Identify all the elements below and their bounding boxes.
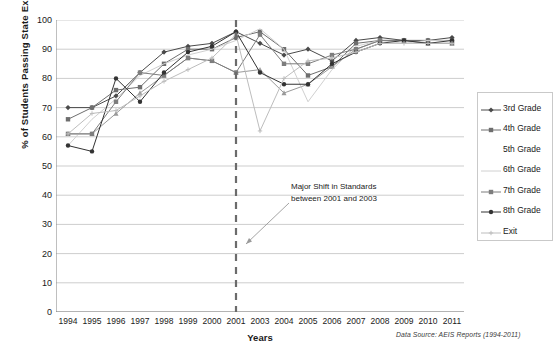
- datapoint-1998: [162, 70, 166, 74]
- datapoint-2000: [210, 44, 214, 48]
- y-tick-40: 40: [22, 190, 52, 200]
- datapoint-1999: [186, 56, 190, 60]
- datapoint-1997: [138, 70, 142, 74]
- line-chart: % of Students Passing State Exam 0102030…: [0, 0, 558, 358]
- datapoint-1999: [186, 50, 190, 54]
- legend-marker-icon: [480, 163, 502, 175]
- y-tick-70: 70: [22, 103, 52, 113]
- legend-point: [489, 128, 493, 132]
- legend-label: 3rd Grade: [502, 103, 541, 113]
- datapoint-2003: [258, 70, 262, 74]
- annotation-leader-line: [246, 203, 289, 244]
- datapoint-1997: [138, 100, 142, 104]
- datapoint-2006: [330, 62, 334, 66]
- legend-item-8th-grade[interactable]: 8th Grade: [480, 200, 552, 221]
- y-tick-10: 10: [22, 278, 52, 288]
- y-tick-30: 30: [22, 219, 52, 229]
- x-tick-2011: 2011: [432, 316, 472, 326]
- legend-label: 8th Grade: [502, 205, 541, 215]
- series-line: [68, 32, 452, 152]
- datapoint-1995: [90, 149, 94, 153]
- annotation-major-shift: Major Shift in Standards between 2001 an…: [291, 181, 411, 204]
- y-tick-90: 90: [22, 44, 52, 54]
- series-5th-grade: [66, 38, 455, 136]
- y-tick-100: 100: [22, 15, 52, 25]
- legend-marker-icon: [480, 102, 502, 114]
- datapoint-1994: [66, 117, 70, 121]
- legend-marker-icon: [480, 143, 502, 155]
- annotation-line-1: Major Shift in Standards: [291, 181, 411, 193]
- datapoint-1994: [66, 143, 70, 147]
- datapoint-2003: [257, 41, 262, 46]
- datapoint-1996: [114, 100, 118, 104]
- legend-item-4th-grade[interactable]: 4th Grade: [480, 118, 552, 139]
- plot-svg: [56, 20, 464, 312]
- legend-label: Exit: [502, 226, 517, 236]
- legend-item-3rd-grade[interactable]: 3rd Grade: [480, 97, 552, 118]
- series-7th-grade: [66, 32, 454, 136]
- legend-label: 5th Grade: [502, 144, 541, 154]
- y-tick-20: 20: [22, 249, 52, 259]
- datapoint-2005: [305, 47, 310, 52]
- legend-marker-icon: [480, 204, 502, 216]
- legend-item-5th-grade[interactable]: 5th Grade: [480, 138, 552, 159]
- datapoint-2005: [306, 82, 310, 86]
- datapoint-1994: [65, 105, 70, 110]
- datapoint-1996: [114, 76, 118, 80]
- datapoint-2005: [306, 73, 310, 77]
- datapoint-2003: [258, 32, 262, 36]
- datapoint-1997: [138, 85, 142, 89]
- datapoint-1995: [90, 105, 94, 109]
- datapoint-2004: [282, 62, 286, 66]
- legend-label: 4th Grade: [502, 123, 541, 133]
- legend-label: 7th Grade: [502, 185, 541, 195]
- legend-label: 6th Grade: [502, 164, 541, 174]
- legend-item-7th-grade[interactable]: 7th Grade: [480, 179, 552, 200]
- datapoint-1995: [90, 132, 94, 136]
- y-tick-50: 50: [22, 161, 52, 171]
- legend-marker-icon: [480, 184, 502, 196]
- series-exit: [66, 32, 454, 136]
- y-tick-80: 80: [22, 73, 52, 83]
- legend-point: [488, 107, 493, 112]
- legend-item-exit[interactable]: Exit: [480, 220, 552, 241]
- y-tick-60: 60: [22, 132, 52, 142]
- legend-point: [489, 210, 493, 214]
- legend-point: [489, 189, 493, 193]
- plot-area: [56, 20, 464, 312]
- datapoint-2007: [354, 41, 358, 45]
- legend-item-6th-grade[interactable]: 6th Grade: [480, 159, 552, 180]
- legend-marker-icon: [480, 225, 502, 237]
- y-axis-tick-labels: 0102030405060708090100: [18, 0, 52, 358]
- annotation-line-2: between 2001 and 2003: [291, 193, 411, 205]
- legend-marker-icon: [480, 122, 502, 134]
- data-source-note: Data Source: AEIS Reports (1994-2011): [396, 331, 556, 338]
- legend: 3rd Grade4th Grade5th Grade6th Grade7th …: [477, 92, 553, 241]
- datapoint-1996: [114, 88, 118, 92]
